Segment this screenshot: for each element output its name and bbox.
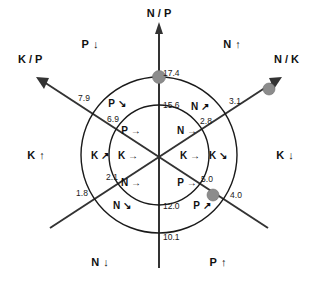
tick-kp-outer: 7.9 bbox=[78, 93, 90, 103]
tick-kp-inner: 6.9 bbox=[107, 114, 119, 124]
tick-np-outer-bottom: 10.1 bbox=[163, 232, 180, 242]
inner-sector-top-right: N→ bbox=[177, 125, 197, 136]
tick-np-inner-bottom: 12.0 bbox=[163, 201, 180, 211]
tick-nk-inner: 2.8 bbox=[200, 116, 212, 126]
outer-sector-left: K↗ bbox=[91, 150, 109, 161]
quadrant-label-right: K↓ bbox=[276, 149, 293, 161]
inner-sector-left: K→ bbox=[118, 150, 138, 161]
outer-sector-top-left: P↘ bbox=[108, 98, 126, 109]
axis-lines bbox=[36, 22, 282, 268]
inner-sector-bottom-left: N→ bbox=[121, 177, 141, 188]
nutrient-ratio-diagram: N / P K / P N / K P↓ N↑ K↑ K↓ N↓ P↑ P↘ N… bbox=[0, 0, 317, 289]
tick-kp-lower-outer: 1.8 bbox=[76, 188, 88, 198]
tick-np-outer-top: 17.4 bbox=[163, 68, 180, 78]
tick-nk-outer: 3.1 bbox=[229, 96, 241, 106]
outer-sector-right: K↘ bbox=[209, 150, 227, 161]
tick-kp-lower-inner: 2.1 bbox=[106, 172, 118, 182]
tick-nk-lower-inner: 5.0 bbox=[201, 174, 213, 184]
quadrant-label-top-left: P↓ bbox=[82, 38, 99, 50]
quadrant-label-bottom-left: N↓ bbox=[91, 256, 108, 268]
tick-np-inner-top: 15.6 bbox=[163, 100, 180, 110]
inner-sector-bottom-right: P→ bbox=[177, 177, 197, 188]
marker-dot-nk[interactable] bbox=[263, 83, 275, 95]
quadrant-label-bottom-right: P↑ bbox=[210, 256, 227, 268]
arrowhead-np-icon bbox=[155, 22, 163, 34]
outer-sector-bottom-right: P↗ bbox=[193, 200, 211, 211]
axis-title-upper-left: K / P bbox=[18, 53, 42, 65]
outer-sector-bottom-left: N↘ bbox=[113, 200, 131, 211]
diagram-canvas: N / P K / P N / K P↓ N↑ K↑ K↓ N↓ P↑ P↘ N… bbox=[0, 0, 317, 289]
axis-title-upper-right: N / K bbox=[274, 53, 299, 65]
outer-sector-top-right: N↗ bbox=[191, 101, 209, 112]
tick-nk-lower-outer: 4.0 bbox=[230, 190, 242, 200]
inner-sector-top-left: P→ bbox=[121, 125, 141, 136]
inner-sector-right: K→ bbox=[180, 150, 200, 161]
marker-dots bbox=[153, 71, 276, 202]
quadrant-label-left: K↑ bbox=[27, 149, 44, 161]
axis-title-top: N / P bbox=[147, 7, 171, 19]
quadrant-label-top-right: N↑ bbox=[223, 38, 240, 50]
